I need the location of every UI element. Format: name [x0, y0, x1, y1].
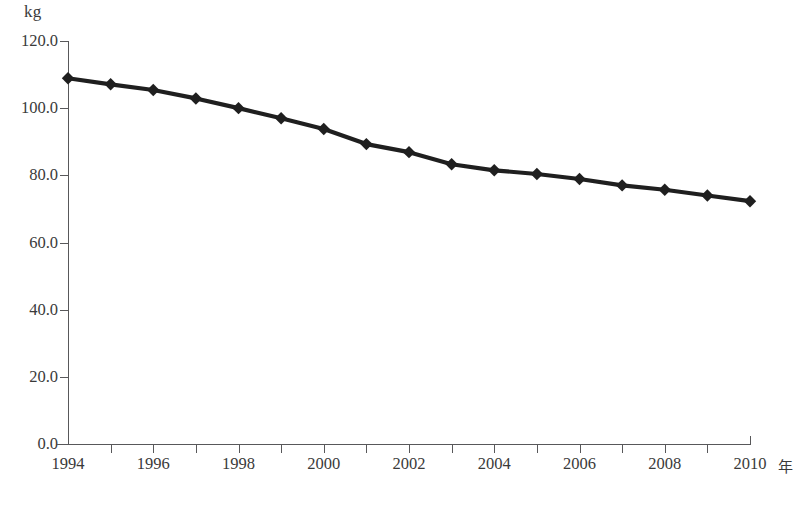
data-point-marker [573, 173, 585, 185]
data-point-marker [318, 123, 330, 135]
data-point-marker [62, 72, 74, 84]
data-point-marker [190, 92, 202, 104]
data-point-marker [531, 168, 543, 180]
series-line [68, 78, 750, 201]
data-point-marker [445, 158, 457, 170]
data-point-marker [659, 184, 671, 196]
data-point-marker [360, 138, 372, 150]
data-point-marker [104, 78, 116, 90]
data-point-marker [275, 112, 287, 124]
data-point-marker [616, 179, 628, 191]
data-point-marker [403, 146, 415, 158]
data-point-marker [701, 189, 713, 201]
data-point-marker [744, 195, 756, 207]
line-chart: kg 年 120.0100.080.060.040.020.00.0 19941… [0, 0, 809, 509]
series-plot-area [0, 0, 809, 509]
data-point-marker [147, 84, 159, 96]
data-point-marker [488, 164, 500, 176]
data-point-marker [232, 102, 244, 114]
